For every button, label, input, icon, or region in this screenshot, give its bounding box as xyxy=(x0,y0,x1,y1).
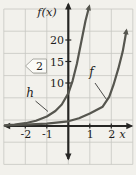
x-tick-label: 1 xyxy=(87,128,94,141)
y-axis-title: f(x) xyxy=(36,5,57,19)
x-tick-label: -1 xyxy=(42,128,53,141)
figure-canvas: -2-112101520 f(x) x h f 2 xyxy=(0,0,136,175)
x-tick-label: -2 xyxy=(20,128,31,141)
y-tick-label: 20 xyxy=(50,34,64,47)
h-label-leader-line xyxy=(36,101,49,112)
callout-number: 2 xyxy=(36,60,43,73)
curve-label-h: h xyxy=(26,86,34,100)
x-axis-title: x xyxy=(119,127,126,141)
y-tick-label: 15 xyxy=(50,56,64,69)
curve-label-f: f xyxy=(88,65,96,79)
exercise-number-callout: 2 xyxy=(26,59,48,74)
curve-f xyxy=(5,31,126,125)
y-axis-down-arrow-icon xyxy=(65,154,71,161)
textbook-figure: -2-112101520 f(x) x h f 2 xyxy=(0,0,136,175)
f-label-leader-line xyxy=(95,83,107,100)
y-tick-label: 10 xyxy=(50,77,64,90)
curves xyxy=(5,4,129,125)
x-axis-right-arrow-icon xyxy=(126,123,133,129)
curve-h-arrow-icon xyxy=(86,4,91,11)
y-axis-up-arrow-icon xyxy=(65,3,71,10)
x-tick-label: 2 xyxy=(108,128,115,141)
